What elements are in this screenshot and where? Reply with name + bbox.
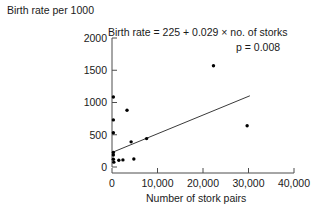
y-tick-label: 1000 — [84, 96, 108, 108]
data-point — [112, 131, 115, 134]
x-tick-label: 0 — [109, 177, 115, 189]
data-point — [112, 158, 115, 161]
data-point — [129, 140, 132, 143]
y-tick-label: 0 — [101, 161, 107, 173]
data-point — [112, 118, 115, 121]
data-point — [145, 137, 148, 140]
x-tick-label: 40,000 — [278, 177, 310, 189]
data-point — [245, 124, 248, 127]
stork-birthrate-scatter-figure: Birth rate per 1000 Birth rate = 225 + 0… — [0, 0, 322, 217]
data-point — [112, 160, 115, 163]
data-point — [117, 159, 120, 162]
data-point — [132, 157, 135, 160]
axes-group — [112, 38, 294, 173]
x-tick-group: 010,00020,00030,00040,000 — [109, 168, 310, 189]
data-points-group — [112, 64, 249, 164]
regression-line-group — [112, 96, 250, 153]
y-tick-label: 1500 — [84, 64, 108, 76]
x-tick-label: 10,000 — [141, 177, 173, 189]
x-tick-label: 20,000 — [187, 177, 219, 189]
plot-area: 0500100015002000 010,00020,00030,00040,0… — [0, 0, 322, 217]
data-point — [121, 158, 124, 161]
data-point — [112, 153, 115, 156]
data-point — [212, 64, 215, 67]
regression-line — [112, 96, 250, 153]
y-tick-label: 500 — [89, 129, 107, 141]
x-tick-label: 30,000 — [232, 177, 264, 189]
data-point — [112, 95, 115, 98]
y-tick-label: 2000 — [84, 32, 108, 44]
data-point — [125, 109, 128, 112]
